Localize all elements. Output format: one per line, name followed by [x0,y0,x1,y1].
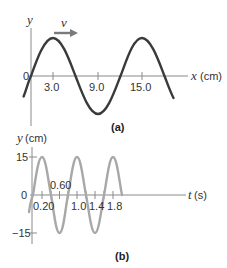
b-t-unit: (s) [194,189,207,201]
a-origin-label: 0 [23,70,29,82]
panel-a-label: (a) [111,121,125,133]
panel-b-label: (b) [115,250,129,262]
b-ytick-label-15: 15 [16,151,28,163]
a-tick-label-3: 3.0 [44,81,59,93]
b-tick-label-020: 0.20 [33,200,54,212]
b-t-label: t [188,187,192,202]
panel-b: y (cm) 15 0 −15 0.60 0.20 1.0 1.4 1.8 t … [12,130,207,262]
b-y-unit: (cm) [25,132,47,144]
b-tick-label-10: 1.0 [71,200,86,212]
b-origin-label: 0 [21,189,27,201]
velocity-arrow-icon [54,29,78,37]
b-tick-label-18: 1.8 [107,200,122,212]
panel-a: y v 0 3.0 9.0 15.0 x (cm) (a) [23,12,222,133]
b-ytick-label-neg15: −15 [12,227,31,239]
a-x-unit: (cm) [200,70,222,82]
a-tick-label-9: 9.0 [89,81,104,93]
a-v-label: v [61,15,67,30]
b-y-label: y [15,130,23,145]
a-tick-label-15: 15.0 [130,81,151,93]
b-tick-label-060: 0.60 [50,179,71,191]
b-tick-label-14: 1.4 [89,200,104,212]
a-y-label: y [25,12,33,27]
wave-diagram: y v 0 3.0 9.0 15.0 x (cm) (a) y (cm) 15 … [0,0,227,268]
a-x-label: x [190,68,197,83]
